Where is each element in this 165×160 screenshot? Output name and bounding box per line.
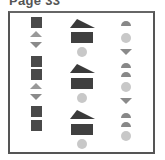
triangle-down-shape xyxy=(30,94,42,100)
semicircle-shape xyxy=(121,122,131,127)
semicircle-shape xyxy=(121,72,131,77)
rectangle-shape xyxy=(71,32,93,43)
square-shape xyxy=(31,17,42,28)
rectangle-shape xyxy=(71,124,93,135)
semicircle-shape xyxy=(121,113,131,118)
circle-shape xyxy=(121,131,131,141)
circle-shape xyxy=(77,139,87,149)
triangle-up-shape xyxy=(30,31,42,37)
circle-shape xyxy=(121,33,131,43)
triangle-down-shape xyxy=(30,42,42,48)
square-shape xyxy=(31,69,42,80)
circle-shape xyxy=(77,93,87,103)
circle-shape xyxy=(77,47,87,57)
wedge-shape xyxy=(70,64,95,74)
circle-shape xyxy=(121,82,131,92)
triangle-up-shape xyxy=(30,83,42,89)
semicircle-shape xyxy=(121,63,131,68)
wedge-shape xyxy=(70,19,95,29)
square-shape xyxy=(31,56,42,67)
square-shape xyxy=(31,106,42,117)
triangle-down-shape xyxy=(120,98,132,104)
page-title: Page 33 xyxy=(9,0,60,8)
semicircle-shape xyxy=(121,21,131,26)
wedge-shape xyxy=(70,110,95,120)
rectangle-shape xyxy=(71,78,93,89)
triangle-down-shape xyxy=(120,49,132,55)
square-shape xyxy=(31,120,42,131)
